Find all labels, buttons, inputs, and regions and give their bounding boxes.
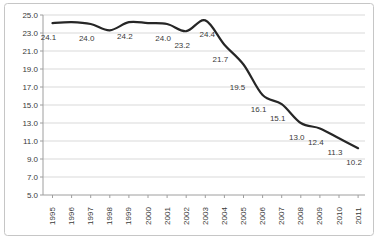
x-tick-label: 2001: [163, 207, 172, 225]
y-tick-label: 21.0: [22, 47, 38, 56]
data-label: 24.0: [79, 34, 95, 43]
y-tick-label: 11.0: [23, 137, 39, 146]
data-label: 19.5: [230, 83, 246, 92]
x-tick-label: 2009: [315, 207, 324, 225]
data-label: 24.1: [41, 33, 57, 42]
x-tick-label: 2007: [277, 207, 286, 225]
x-tick-label: 2000: [144, 207, 153, 225]
x-tick-label: 2003: [201, 207, 210, 225]
x-tick-label: 2004: [220, 207, 229, 225]
y-tick-label: 15.0: [22, 101, 38, 110]
data-label: 13.0: [289, 133, 305, 142]
y-tick-label: 13.0: [22, 119, 38, 128]
data-label: 11.3: [328, 148, 344, 157]
y-tick-label: 17.0: [22, 83, 38, 92]
data-label: 24.4: [200, 30, 216, 39]
line-chart: 25.023.021.019.017.015.013.011.09.07.05.…: [0, 0, 385, 243]
x-tick-label: 1999: [124, 207, 133, 225]
x-tick-label: 1995: [48, 207, 57, 225]
data-label: 15.1: [270, 114, 286, 123]
y-tick-label: 19.0: [22, 65, 38, 74]
x-tick-label: 2006: [258, 207, 267, 225]
y-tick-label: 25.0: [22, 11, 38, 20]
x-tick-label: 2008: [296, 207, 305, 225]
data-label: 23.2: [174, 41, 190, 50]
x-tick-label: 1996: [67, 207, 76, 225]
data-label: 21.7: [213, 55, 229, 64]
data-label: 10.2: [346, 158, 362, 167]
x-tick-label: 2005: [239, 207, 248, 225]
data-label: 12.4: [308, 138, 324, 147]
x-tick-label: 2011: [354, 207, 363, 225]
x-tick-label: 2010: [335, 207, 344, 225]
data-label: 24.2: [117, 32, 133, 41]
x-tick-label: 1997: [86, 207, 95, 225]
chart-canvas: 25.023.021.019.017.015.013.011.09.07.05.…: [0, 0, 385, 243]
y-tick-label: 23.0: [22, 29, 38, 38]
x-tick-label: 1998: [105, 207, 114, 225]
data-label: 16.1: [251, 105, 267, 114]
y-tick-label: 9.0: [27, 155, 39, 164]
y-tick-label: 5.0: [27, 191, 39, 200]
y-tick-label: 7.0: [27, 173, 39, 182]
x-tick-label: 2002: [182, 207, 191, 225]
data-label: 24.0: [155, 34, 171, 43]
chart-border: [5, 4, 374, 236]
